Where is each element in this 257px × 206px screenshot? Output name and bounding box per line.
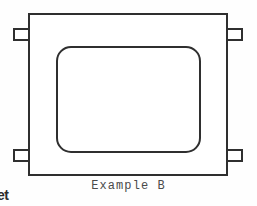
technical-drawing-figure: et Example B xyxy=(0,0,257,206)
top-left-tab xyxy=(14,29,30,40)
bottom-left-tab xyxy=(14,150,30,161)
top-right-tab xyxy=(226,29,242,40)
panel-line-drawing xyxy=(0,0,257,206)
bottom-right-tab xyxy=(226,150,242,161)
figure-caption: Example B xyxy=(0,179,257,193)
inner-rounded-cutout xyxy=(57,47,200,152)
